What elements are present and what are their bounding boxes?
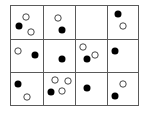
hollow-dot-icon [52, 77, 58, 83]
grid-cell-r3-c2 [48, 77, 72, 96]
filled-dot-icon [115, 11, 122, 18]
grid-cell-r2-c3 [80, 44, 98, 63]
grid-cell-r1-c1 [16, 14, 35, 35]
grid-cell-r2-c2 [59, 56, 66, 63]
hollow-dot-icon [120, 23, 126, 29]
hollow-dot-icon [55, 15, 61, 21]
dot-grid-diagram [0, 0, 147, 115]
filled-dot-icon [84, 56, 91, 63]
filled-dot-icon [112, 48, 119, 55]
hollow-dot-icon [80, 44, 86, 50]
hollow-dot-icon [24, 94, 30, 100]
hollow-dot-icon [28, 29, 34, 35]
grid-cell-r2-c1 [15, 48, 39, 59]
hollow-dot-icon [92, 52, 98, 58]
grid-cell-r3-c4 [112, 81, 127, 100]
filled-dot-icon [16, 23, 23, 30]
grid-cell-r3-c3 [84, 85, 91, 92]
grid-cell-r1-c2 [55, 15, 66, 34]
filled-dot-icon [15, 81, 22, 88]
filled-dot-icon [48, 89, 55, 96]
grid-cell-r3-c1 [15, 81, 31, 101]
filled-dot-icon [32, 52, 39, 59]
grid-cell-r2-c4 [112, 48, 119, 55]
filled-dot-icon [59, 27, 66, 34]
hollow-dot-icon [23, 14, 29, 20]
filled-dot-icon [84, 85, 91, 92]
filled-dot-icon [59, 56, 66, 63]
hollow-dot-icon [120, 81, 126, 87]
grid-cells [15, 11, 127, 101]
hollow-dot-icon [65, 78, 71, 84]
hollow-dot-icon [59, 88, 65, 94]
grid-cell-r1-c4 [115, 11, 127, 30]
grid-lines [10, 5, 139, 106]
hollow-dot-icon [15, 48, 21, 54]
filled-dot-icon [112, 93, 119, 100]
